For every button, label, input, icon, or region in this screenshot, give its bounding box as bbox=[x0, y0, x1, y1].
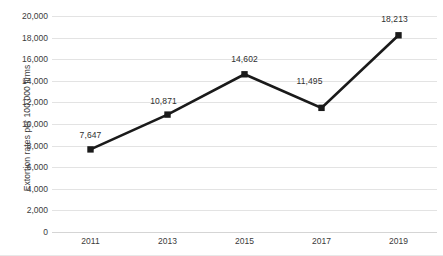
y-axis-tick-label: 10,000 bbox=[2, 119, 48, 129]
plot-area: 7,64710,87114,60211,49518,213 bbox=[52, 16, 437, 232]
data-point-label: 18,213 bbox=[381, 14, 408, 24]
data-point-label: 10,871 bbox=[150, 96, 177, 106]
y-axis-tick-label: 14,000 bbox=[2, 76, 48, 86]
y-axis-tick-label: 12,000 bbox=[2, 97, 48, 107]
y-axis-tick-label: 4,000 bbox=[2, 184, 48, 194]
y-axis-tick-label: 18,000 bbox=[2, 33, 48, 43]
y-axis-tick-label: 16,000 bbox=[2, 54, 48, 64]
data-point-marker bbox=[318, 105, 324, 111]
x-axis-tick-labels: 20112013201520172019 bbox=[52, 236, 437, 256]
x-axis-tick-label: 2011 bbox=[81, 236, 99, 246]
y-axis-tick-label: 20,000 bbox=[2, 11, 48, 21]
series-line bbox=[91, 35, 399, 149]
y-axis-tick-label: 8,000 bbox=[2, 141, 48, 151]
data-series-line bbox=[52, 16, 437, 232]
y-axis-tick-label: 0 bbox=[2, 227, 48, 237]
y-axis-tick-label: 2,000 bbox=[2, 205, 48, 215]
x-axis-tick-label: 2019 bbox=[389, 236, 408, 246]
x-axis-tick-label: 2015 bbox=[235, 236, 254, 246]
y-axis-tick-label: 6,000 bbox=[2, 162, 48, 172]
data-point-label: 7,647 bbox=[80, 130, 102, 140]
data-point-label: 14,602 bbox=[231, 54, 258, 64]
axis-baseline bbox=[52, 232, 437, 233]
data-point-marker bbox=[395, 32, 401, 38]
data-point-marker bbox=[87, 146, 93, 152]
data-point-marker bbox=[241, 71, 247, 77]
y-axis-tick-labels: 02,0004,0006,0008,00010,00012,00014,0001… bbox=[0, 0, 48, 256]
x-axis-tick-label: 2017 bbox=[312, 236, 331, 246]
x-axis-tick-label: 2013 bbox=[158, 236, 177, 246]
data-point-label: 11,495 bbox=[297, 76, 323, 86]
data-point-marker bbox=[164, 111, 170, 117]
line-chart: Extortion rates per 100,000 firms 02,000… bbox=[0, 0, 443, 256]
